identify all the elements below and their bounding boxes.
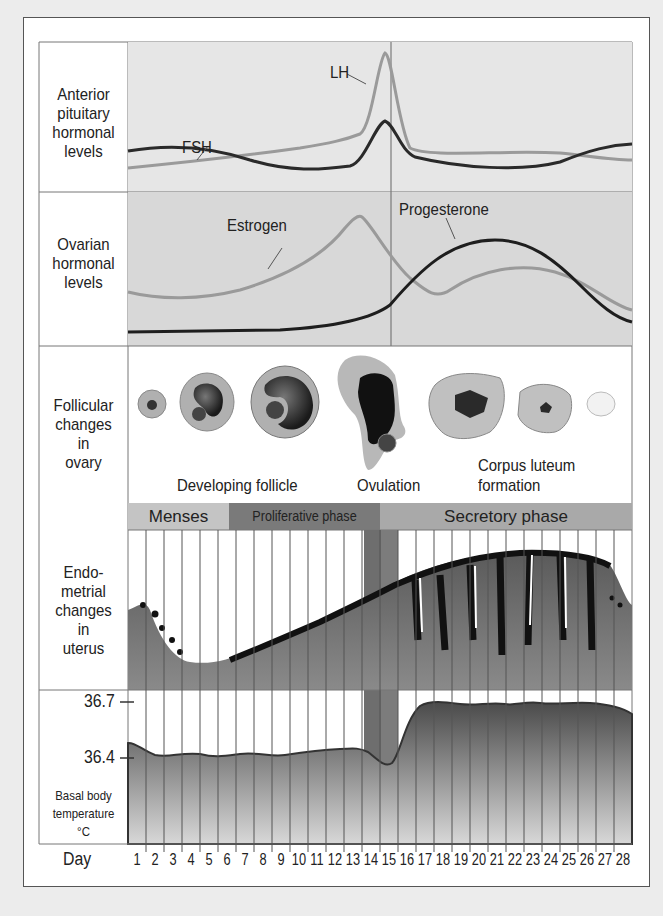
- temp-tick-low: 36.4: [84, 747, 115, 768]
- fsh-label: FSH: [182, 138, 212, 158]
- corpus-luteum-label-1: Corpus luteum: [478, 456, 575, 476]
- phase-secretory: Secretory phase: [380, 503, 632, 530]
- lh-label: LH: [330, 63, 349, 83]
- developing-follicle-label: Developing follicle: [177, 476, 298, 496]
- ovulation-label: Ovulation: [357, 476, 420, 496]
- row-label-ovarian: Ovarian hormonal levels: [44, 235, 122, 292]
- x-axis-label: Day: [63, 849, 91, 870]
- row-label-temperature: Basal body temperature °C: [44, 787, 122, 841]
- corpus-luteum-label-2: formation: [478, 476, 540, 496]
- follicle-illustrations: [138, 356, 615, 470]
- phase-menses: Menses: [128, 503, 229, 530]
- temp-tick-high: 36.7: [84, 691, 115, 712]
- phase-proliferative: Proliferative phase: [237, 503, 373, 530]
- row-label-pituitary: Anterior pituitary hormonal levels: [44, 85, 122, 161]
- ovarian-panel: [128, 192, 632, 346]
- row-label-follicular: Follicular changes in ovary: [44, 396, 122, 472]
- progesterone-label: Progesterone: [399, 200, 489, 220]
- row-label-endometrial: Endo- metrial changes in uterus: [44, 563, 122, 658]
- estrogen-label: Estrogen: [227, 216, 287, 236]
